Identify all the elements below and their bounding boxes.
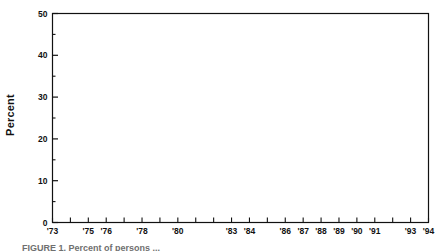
svg-text:'80: '80 — [172, 226, 184, 236]
y-axis-ticks: 01020304050 — [38, 9, 58, 228]
svg-text:'78: '78 — [136, 226, 148, 236]
svg-text:'87: '87 — [297, 226, 309, 236]
svg-text:'73: '73 — [47, 226, 59, 236]
svg-text:'86: '86 — [280, 226, 292, 236]
svg-text:'83: '83 — [226, 226, 238, 236]
svg-text:50: 50 — [38, 9, 48, 19]
svg-text:10: 10 — [38, 176, 48, 186]
figure-caption: FIGURE 1. Percent of persons ... — [22, 243, 422, 251]
svg-text:'88: '88 — [315, 226, 327, 236]
svg-text:'84: '84 — [244, 226, 256, 236]
line-chart: 01020304050 '73'75'76'78'80'83'84'86'87'… — [0, 0, 439, 251]
x-axis-ticks: '73'75'76'78'80'83'84'86'87'88'89'90'91'… — [47, 218, 435, 236]
svg-text:'93: '93 — [405, 226, 417, 236]
svg-text:'76: '76 — [100, 226, 112, 236]
svg-text:30: 30 — [38, 92, 48, 102]
svg-text:'89: '89 — [333, 226, 345, 236]
svg-text:'90: '90 — [351, 226, 363, 236]
svg-text:'94: '94 — [423, 226, 435, 236]
svg-text:'91: '91 — [369, 226, 381, 236]
svg-text:'75: '75 — [83, 226, 95, 236]
plot-frame — [53, 14, 429, 223]
figure-panel: Percent 01020304050 '73'75'76'78'80'83'8… — [0, 0, 439, 251]
svg-text:40: 40 — [38, 50, 48, 60]
svg-text:20: 20 — [38, 134, 48, 144]
